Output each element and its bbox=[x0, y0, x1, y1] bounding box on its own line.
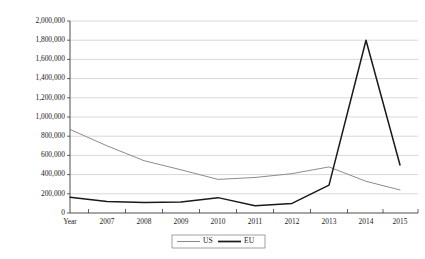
y-axis-tick-label: 600,000 bbox=[41, 150, 65, 159]
chart-canvas: 0200,000400,000600,000800,0001,000,0001,… bbox=[0, 0, 425, 259]
x-axis-tick-label: 2014 bbox=[359, 217, 374, 226]
y-axis-tick-label: 200,000 bbox=[41, 189, 65, 198]
y-axis-tick-label: 1,800,000 bbox=[35, 35, 65, 44]
y-axis-tick-label: 400,000 bbox=[41, 169, 65, 178]
x-axis-tick-label: 2013 bbox=[322, 217, 337, 226]
y-axis-tick-label: 2,000,000 bbox=[35, 16, 65, 25]
x-axis-tick-label: 2011 bbox=[248, 217, 263, 226]
x-axis-tick-label: Year bbox=[63, 217, 77, 226]
x-axis-tick-label: 2012 bbox=[285, 217, 300, 226]
line-chart: 0200,000400,000600,000800,0001,000,0001,… bbox=[0, 0, 425, 259]
y-axis-tick-label: 0 bbox=[61, 208, 65, 217]
x-axis-tick-label: 2009 bbox=[174, 217, 189, 226]
x-axis-tick-label: 2010 bbox=[211, 217, 226, 226]
y-axis-tick-label: 1,400,000 bbox=[35, 73, 65, 82]
legend-label-eu: EU bbox=[244, 236, 255, 245]
legend-label-us: US bbox=[203, 236, 213, 245]
x-axis-tick-label: 2007 bbox=[100, 217, 115, 226]
chart-legend: USEU bbox=[172, 235, 265, 248]
y-axis-tick-label: 1,600,000 bbox=[35, 54, 65, 63]
x-axis-tick-label: 2008 bbox=[137, 217, 152, 226]
y-axis-tick-label: 1,000,000 bbox=[35, 112, 65, 121]
x-axis-tick-label: 2015 bbox=[393, 217, 408, 226]
y-axis-tick-label: 1,200,000 bbox=[35, 93, 65, 102]
y-axis-tick-label: 800,000 bbox=[41, 131, 65, 140]
